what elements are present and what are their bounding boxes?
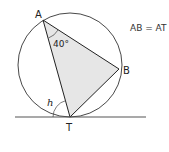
given-condition: AB = AT	[130, 23, 167, 33]
label-point-t: T	[65, 122, 73, 133]
angle-label-h: h	[47, 97, 53, 108]
circle-tangent-diagram: A B T 40° h AB = AT	[0, 0, 169, 152]
label-point-a: A	[35, 9, 42, 20]
angle-label-40: 40°	[53, 39, 69, 49]
label-point-b: B	[123, 65, 130, 76]
